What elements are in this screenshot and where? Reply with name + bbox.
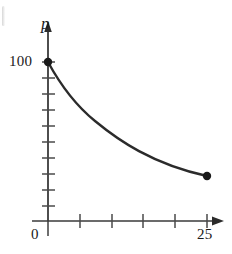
x-tick-label-25: 25 [197, 227, 213, 242]
plot-canvas [0, 0, 232, 254]
y-tick-label-100: 100 [9, 54, 32, 69]
y-axis-label: p [41, 15, 50, 32]
curve-end-point-marker [203, 172, 211, 180]
x-origin-label: 0 [31, 227, 39, 242]
x-axis-arrowhead [212, 217, 224, 226]
curve-start-point-marker [44, 58, 52, 66]
exponential-decay-graph-figure: p 100 0 25 [0, 0, 232, 254]
decay-curve [48, 62, 207, 176]
